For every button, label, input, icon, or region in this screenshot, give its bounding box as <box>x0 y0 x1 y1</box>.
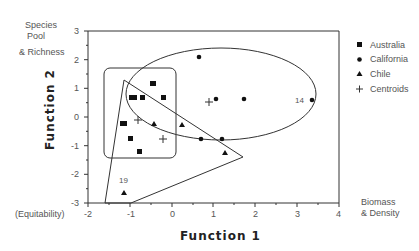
legend-california: California <box>370 54 408 64</box>
point-label-14: 14 <box>295 96 304 105</box>
label-species: Species <box>25 20 58 30</box>
x-axis-title: Function 1 <box>180 229 261 243</box>
y-axis-title: Function 2 <box>43 69 57 150</box>
legend-centroids: Centroids <box>370 84 409 94</box>
svg-text:1: 1 <box>74 83 79 93</box>
svg-text:-1: -1 <box>127 209 135 219</box>
point-label-19: 19 <box>119 176 128 185</box>
x-axis-labels: -2 -1 0 1 2 3 4 <box>84 209 341 219</box>
y-axis-ticks <box>84 31 88 203</box>
legend-plus-icon <box>356 86 363 93</box>
label-density: & Density <box>361 208 400 218</box>
svg-text:-3: -3 <box>71 198 79 208</box>
legend-circle-icon <box>357 57 362 62</box>
label-pool: Pool <box>27 31 45 41</box>
svg-text:4: 4 <box>336 209 341 219</box>
svg-text:-2: -2 <box>71 169 79 179</box>
legend: Australia California Chile Centroids <box>356 40 409 94</box>
legend-square-icon <box>357 42 362 47</box>
svg-text:3: 3 <box>295 209 300 219</box>
svg-text:-1: -1 <box>71 141 79 151</box>
label-equitability: (Equitability) <box>15 209 65 219</box>
legend-chile: Chile <box>370 69 391 79</box>
svg-text:1: 1 <box>211 209 216 219</box>
series-centroids <box>134 98 213 143</box>
svg-text:2: 2 <box>253 209 258 219</box>
australia-enclosure <box>104 68 176 158</box>
svg-text:0: 0 <box>74 112 79 122</box>
y-axis-labels: 3 2 1 0 -1 -2 -3 <box>71 26 79 208</box>
label-biomass: Biomass <box>361 197 396 207</box>
svg-text:-2: -2 <box>84 209 92 219</box>
legend-triangle-icon <box>357 71 363 76</box>
discriminant-plot: Species Pool & Richness (Equitability) B… <box>0 0 419 251</box>
svg-text:0: 0 <box>170 209 175 219</box>
legend-australia: Australia <box>370 40 405 50</box>
california-enclosure <box>126 48 316 140</box>
x-axis-ticks <box>88 203 339 207</box>
label-richness: & Richness <box>19 47 65 57</box>
svg-text:3: 3 <box>74 26 79 36</box>
svg-text:2: 2 <box>74 55 79 65</box>
